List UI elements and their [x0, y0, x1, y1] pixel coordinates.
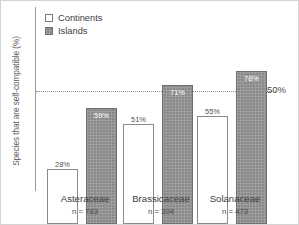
bar-value-continents-solanaceae: 55%	[198, 107, 227, 116]
bar-value-islands-brassicaceae: 71%	[163, 88, 192, 97]
category-label-solanaceae: Solanaceae	[187, 193, 283, 204]
chart-figure: Species that are self-compatible (%) Con…	[0, 0, 299, 225]
y-axis-label: Species that are self-compatible (%)	[11, 16, 21, 186]
bar-value-continents-asteraceae: 28%	[48, 160, 77, 169]
bar-value-islands-asteraceae: 59%	[87, 111, 116, 120]
category-n-solanaceae: n = 473	[187, 207, 283, 216]
bar-value-continents-brassicaceae: 51%	[124, 115, 153, 124]
bar-value-islands-solanaceae: 78%	[237, 74, 266, 83]
